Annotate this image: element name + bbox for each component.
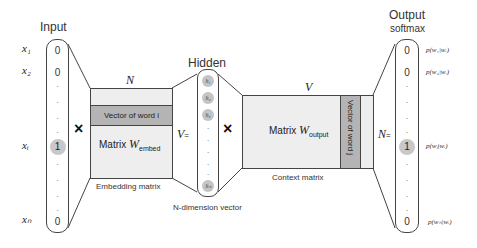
output-value-j: 1	[399, 139, 415, 155]
output-prob-2: p(w₂|wᵢ)	[426, 68, 449, 76]
embedding-word-vector-row: Vector of word i	[91, 105, 172, 126]
output-value-2: 0	[396, 67, 418, 78]
context-word-vector-column: Vector of word j	[340, 96, 361, 168]
output-value-1: 0	[396, 45, 418, 56]
input-label-x2: x₂	[22, 64, 31, 76]
hidden-title: Hidden	[188, 56, 226, 70]
multiply-sign-2: ×	[223, 120, 232, 138]
input-title: Input	[40, 20, 67, 34]
context-caption: Context matrix	[272, 173, 324, 182]
embedding-top-label: N	[126, 73, 134, 88]
hidden-caption: N-dimension vector	[173, 203, 242, 212]
input-value-2: 0	[47, 67, 68, 78]
input-value-i: 1	[50, 139, 66, 155]
output-title: Output	[389, 8, 425, 22]
hidden-unit-n: hₙ	[202, 180, 214, 192]
context-top-label: V	[305, 80, 312, 95]
output-subtitle: softmax	[390, 23, 425, 34]
input-vector: 0 0 · · · · 1 · · · · 0	[46, 39, 69, 233]
embedding-matrix: Vector of word i Matrix Wembed	[90, 88, 173, 179]
hidden-unit-3: h₃	[202, 109, 214, 121]
context-word-vector-label: Vector of word j	[346, 100, 355, 155]
output-vector: 0 0 · · · · 1 · · · · 0	[395, 39, 419, 233]
output-prob-j: p(wⱼ|wᵢ)	[426, 142, 448, 150]
context-matrix-label: Matrix Woutput	[269, 123, 328, 138]
output-value-n: 0	[396, 216, 418, 227]
input-value-n: 0	[47, 216, 68, 227]
input-label-xi: xᵢ	[22, 139, 29, 151]
output-prob-1: p(w₁|wᵢ)	[426, 46, 449, 54]
embedding-caption: Embedding matrix	[96, 182, 160, 191]
hidden-vector: h₁ h₂ h₃ · · · · · hₙ	[197, 69, 219, 197]
embedding-matrix-label: Matrix Wembed	[99, 137, 160, 152]
output-prob-n: p(wₙ|wᵢ)	[428, 218, 452, 226]
input-value-1: 0	[47, 45, 68, 56]
context-matrix: Vector of word j Matrix Woutput	[242, 95, 374, 169]
multiply-sign-1: ×	[74, 120, 83, 138]
input-label-xn: xₙ	[22, 213, 31, 226]
embedding-side-label: V=	[177, 124, 189, 142]
hidden-unit-1: h₁	[202, 75, 214, 87]
input-label-x1: x₁	[22, 42, 31, 54]
context-side-label: N=	[378, 124, 391, 142]
hidden-unit-2: h₂	[202, 92, 214, 104]
